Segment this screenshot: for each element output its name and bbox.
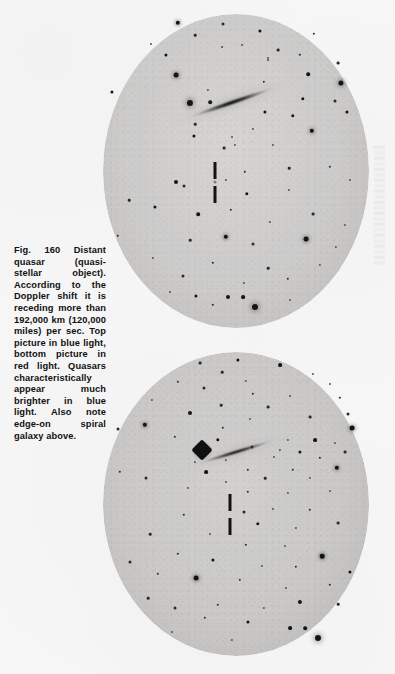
star [252, 243, 255, 246]
star [267, 406, 270, 409]
star [231, 136, 233, 138]
star [221, 371, 224, 374]
star [306, 72, 310, 76]
photographic-plate-top-blue [103, 14, 369, 328]
star [278, 363, 282, 367]
star [350, 426, 355, 431]
star [203, 387, 206, 390]
star [147, 597, 150, 600]
star [225, 481, 227, 483]
star [194, 34, 197, 37]
photographic-plate-bottom-red [103, 352, 369, 656]
star [277, 49, 280, 52]
star [337, 62, 340, 65]
star [344, 224, 346, 226]
quasar-tick-lower-bottom-plate [229, 518, 232, 535]
star [196, 212, 200, 216]
star [221, 46, 223, 48]
star [128, 199, 131, 202]
star [267, 267, 270, 270]
star [117, 428, 120, 431]
star [129, 561, 132, 564]
star [304, 237, 309, 242]
star [222, 23, 225, 26]
star [312, 373, 314, 375]
star [344, 451, 347, 454]
star [176, 21, 180, 25]
star [183, 185, 186, 188]
star [252, 304, 258, 310]
star [150, 43, 152, 45]
star [174, 180, 178, 184]
star [337, 603, 340, 606]
quasar-top-plate [214, 181, 217, 184]
star [288, 167, 291, 170]
star [312, 213, 315, 216]
star [174, 607, 177, 610]
bright-star-diffraction-bottom [191, 439, 212, 460]
star [264, 477, 267, 480]
star [315, 635, 321, 641]
star [188, 411, 192, 415]
star [309, 416, 312, 419]
star [334, 100, 337, 103]
star [289, 395, 291, 397]
star [339, 397, 341, 399]
star [313, 438, 317, 442]
star [267, 59, 269, 61]
star [313, 33, 315, 35]
star [241, 44, 243, 46]
star [337, 522, 340, 525]
star [273, 456, 275, 458]
quasar-tick-lower-top-plate [214, 186, 217, 203]
scan-artifact [374, 145, 385, 265]
star [329, 490, 331, 492]
star [223, 147, 226, 150]
star [241, 295, 245, 299]
star [320, 554, 325, 559]
quasar-tick-upper-bottom-plate [229, 494, 232, 511]
star [329, 383, 331, 385]
star [226, 295, 230, 299]
star [347, 413, 350, 416]
plate-emulsion [103, 352, 369, 656]
caption-body: Fig. 160 Distant quasar (quasi-stellar o… [14, 245, 106, 429]
star [199, 362, 202, 365]
star [145, 477, 148, 480]
star [189, 239, 192, 242]
star [288, 626, 292, 630]
star [194, 576, 199, 581]
star [110, 90, 113, 93]
book-page: Fig. 160 Distant quasar (quasi-stellar o… [0, 0, 395, 674]
star [220, 404, 223, 407]
star [149, 533, 152, 536]
figure-caption: Fig. 160 Distant quasar (quasi-stellar o… [14, 245, 106, 442]
star [204, 470, 208, 474]
star [243, 511, 246, 514]
star [303, 626, 307, 630]
star [182, 275, 185, 278]
star [174, 73, 179, 78]
plate-emulsion [103, 14, 369, 328]
quasar-tick-upper-top-plate [214, 162, 217, 179]
